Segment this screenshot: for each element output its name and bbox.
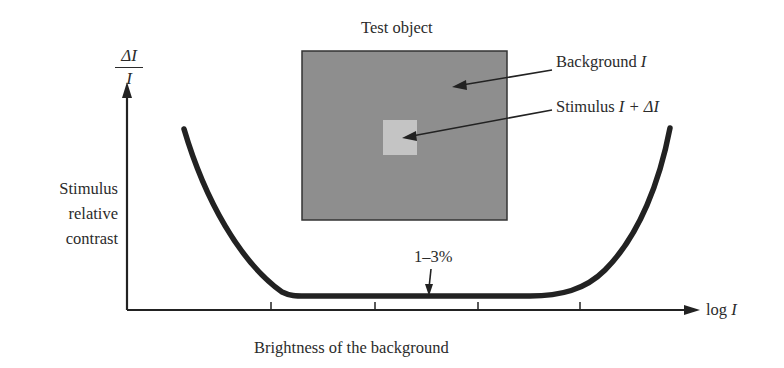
- y-axis-symbol: ΔI I: [115, 46, 143, 89]
- background-label-var: I: [641, 52, 647, 71]
- y-axis-symbol-numerator: ΔI: [115, 46, 143, 68]
- y-axis: [122, 82, 132, 310]
- test-object-title: Test object: [361, 20, 433, 37]
- stimulus-label: Stimulus I + ΔI: [556, 99, 659, 116]
- background-label-text: Background: [556, 52, 641, 71]
- y-axis-symbol-denominator: I: [115, 68, 143, 89]
- stimulus-label-var: I + ΔI: [619, 97, 659, 116]
- x-axis-label-var: I: [731, 300, 737, 319]
- y-axis-label: Stimulus relative contrast: [8, 176, 118, 251]
- x-axis-caption: Brightness of the background: [254, 340, 449, 357]
- y-axis-label-line: contrast: [8, 226, 118, 251]
- y-axis-label-line: relative: [8, 201, 118, 226]
- x-axis-label: log I: [706, 302, 737, 319]
- x-axis-label-text: log: [706, 300, 731, 319]
- x-axis: [127, 302, 700, 315]
- background-label: Background I: [556, 54, 646, 71]
- stimulus-label-text: Stimulus: [556, 97, 619, 116]
- y-axis-label-line: Stimulus: [8, 176, 118, 201]
- minimum-label: 1–3%: [414, 249, 453, 266]
- minimum-arrow: [425, 269, 433, 296]
